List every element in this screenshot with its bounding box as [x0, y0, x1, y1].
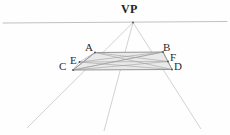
- vanishing-point-label: VP: [121, 3, 138, 15]
- vertex-dot-e: [79, 61, 81, 63]
- vertex-label-e: E: [70, 55, 77, 66]
- vertex-dot-a: [94, 52, 96, 54]
- diagram-svg: [0, 0, 230, 135]
- perspective-diagram-canvas: VP A B C D E F: [0, 0, 230, 135]
- vp-ray-right: [133, 23, 201, 130]
- vertex-dot-f: [167, 61, 169, 63]
- vanishing-point-rays: [27, 23, 201, 132]
- vp-ray-center: [104, 23, 133, 132]
- horizon-line: [3, 22, 227, 24]
- vp-ray-left: [27, 23, 133, 129]
- vertex-label-f: F: [170, 52, 176, 63]
- vertex-dot-d: [171, 69, 173, 71]
- vertex-dot-c: [72, 69, 74, 71]
- vertex-label-c: C: [59, 61, 66, 72]
- vertex-dot-vp: [132, 22, 134, 24]
- vertex-label-a: A: [85, 42, 93, 53]
